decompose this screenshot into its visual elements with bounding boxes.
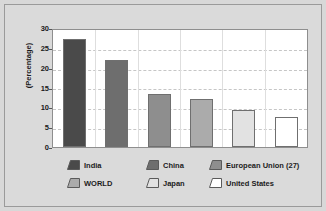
y-tick-label: 10 xyxy=(25,104,49,112)
figure-frame: 30 25 20 15 10 5 0 (Percentage) xyxy=(4,4,322,207)
chart-legend: India China European Union (27) xyxy=(52,158,308,198)
legend-label: Japan xyxy=(163,179,185,188)
legend-swatch-icon xyxy=(67,160,80,170)
bar-japan[interactable] xyxy=(232,110,255,147)
legend-item-india[interactable]: India xyxy=(67,158,102,172)
legend-item-china[interactable]: China xyxy=(146,158,184,172)
legend-item-united-states[interactable]: United States xyxy=(209,176,274,190)
gridline-vertical xyxy=(95,30,96,147)
legend-label: India xyxy=(84,161,102,170)
legend-item-european-union[interactable]: European Union (27) xyxy=(209,158,299,172)
legend-label: China xyxy=(163,161,184,170)
y-axis-label: (Percentage) xyxy=(24,31,33,101)
legend-swatch-icon xyxy=(67,178,80,188)
plot-inner xyxy=(53,30,307,147)
legend-swatch-icon xyxy=(146,178,159,188)
gridline-vertical xyxy=(138,30,139,147)
legend-item-japan[interactable]: Japan xyxy=(146,176,185,190)
legend-label: European Union (27) xyxy=(226,161,299,170)
chart-figure: 30 25 20 15 10 5 0 (Percentage) xyxy=(0,0,326,211)
bar-india[interactable] xyxy=(63,39,86,148)
legend-item-world[interactable]: WORLD xyxy=(67,176,112,190)
bar-world[interactable] xyxy=(190,99,213,147)
legend-swatch-icon xyxy=(209,160,222,170)
legend-row: WORLD Japan United States xyxy=(52,176,308,190)
gridline-vertical xyxy=(265,30,266,147)
y-tick-label: 5 xyxy=(25,124,49,132)
legend-swatch-icon xyxy=(146,160,159,170)
y-tick-mark xyxy=(49,148,52,149)
legend-row: India China European Union (27) xyxy=(52,158,308,172)
bar-china[interactable] xyxy=(105,60,128,147)
plot-area xyxy=(52,29,308,148)
bar-united-states[interactable] xyxy=(275,117,298,147)
legend-label: WORLD xyxy=(84,179,112,188)
y-tick-label: 0 xyxy=(25,144,49,152)
gridline-vertical xyxy=(180,30,181,147)
gridline-vertical xyxy=(222,30,223,147)
legend-swatch-icon xyxy=(209,178,222,188)
bar-european-union[interactable] xyxy=(148,94,171,148)
legend-label: United States xyxy=(226,179,274,188)
